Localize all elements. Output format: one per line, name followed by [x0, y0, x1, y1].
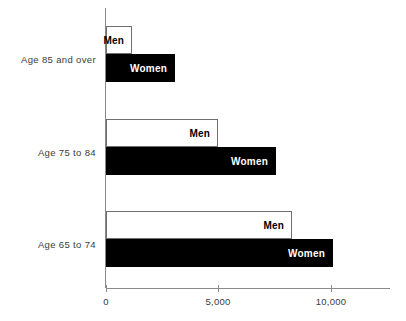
- bar-label-men-age-65-to-74: Men: [263, 220, 291, 231]
- bar-women-age-75-to-84: Women: [106, 147, 276, 175]
- bar-women-age-85-and-over: Women: [106, 54, 175, 82]
- bar-women-age-65-to-74: Women: [106, 239, 333, 267]
- x-tick-label-10000: 10,000: [316, 296, 346, 307]
- bar-label-women-age-85-and-over: Women: [130, 63, 174, 74]
- bar-label-men-age-75-to-84: Men: [189, 128, 217, 139]
- bar-label-men-age-85-and-over: Men: [103, 35, 131, 46]
- bar-label-women-age-75-to-84: Women: [231, 156, 275, 167]
- x-axis-line: [106, 288, 390, 289]
- bar-chart: Age 85 and over Age 75 to 84 Age 65 to 7…: [0, 0, 406, 321]
- bar-label-women-age-65-to-74: Women: [288, 248, 332, 259]
- category-label-age-65-to-74: Age 65 to 74: [38, 239, 96, 250]
- bar-men-age-85-and-over: Men: [106, 26, 132, 54]
- x-tick-10000: [331, 285, 332, 292]
- category-label-age-75-to-84: Age 75 to 84: [38, 147, 96, 158]
- x-tick-label-5000: 5,000: [206, 296, 231, 307]
- category-label-age-85-and-over: Age 85 and over: [21, 54, 96, 65]
- x-tick-label-0: 0: [103, 296, 108, 307]
- x-tick-0: [106, 285, 107, 292]
- bar-men-age-65-to-74: Men: [106, 211, 292, 239]
- x-tick-5000: [218, 285, 219, 292]
- bar-men-age-75-to-84: Men: [106, 119, 218, 147]
